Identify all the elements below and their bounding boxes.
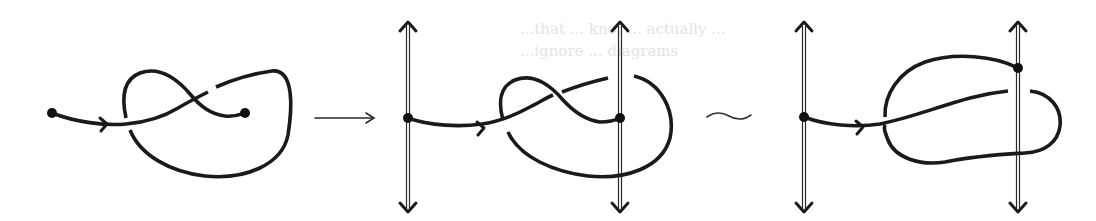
panel-2-arc-on-rails	[400, 22, 671, 212]
endpoint-dot	[1013, 63, 1023, 73]
arc-segment	[885, 56, 1018, 117]
arc-segment	[884, 91, 1060, 163]
endpoint-dot	[403, 113, 413, 123]
endpoint-dot	[615, 113, 625, 123]
arc-segment	[562, 78, 608, 92]
arc-segment	[508, 76, 671, 177]
arrow-down-icon	[796, 203, 812, 212]
arc-segment	[124, 71, 245, 118]
arc-segment	[408, 95, 553, 126]
arrow-down-icon	[1010, 203, 1026, 212]
equivalent-tilde-icon	[707, 113, 751, 119]
arc-segment	[501, 78, 620, 122]
endpoint-dot	[240, 108, 250, 118]
arrow-down-icon	[400, 203, 416, 212]
arrow-up-icon	[400, 22, 416, 31]
endpoint-dot	[47, 108, 57, 118]
knot-diagram-figure	[0, 0, 1096, 221]
arc-segment	[52, 92, 208, 125]
panel-1-knotted-arc	[47, 71, 291, 177]
panel-3-simplified-arc	[796, 22, 1060, 212]
arrow-up-icon	[796, 22, 812, 31]
right-rail	[1010, 22, 1026, 212]
arrow-up-icon	[1010, 22, 1026, 31]
endpoint-dot	[799, 112, 809, 122]
arc-segment	[130, 71, 291, 177]
arc-segment	[804, 91, 1008, 126]
arrow-down-icon	[612, 203, 628, 212]
arrow-up-icon	[612, 22, 628, 31]
maps-to-arrow-icon	[315, 113, 374, 123]
